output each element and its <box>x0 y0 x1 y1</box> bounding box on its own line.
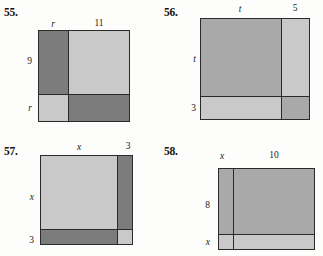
problem-58-region-top-left <box>219 169 233 234</box>
problem-57-region-top-right <box>117 156 132 229</box>
problem-number-55: 55. <box>4 6 18 18</box>
problem-57-left-label-1: 3 <box>14 236 34 246</box>
problem-56-region-bottom-right <box>281 96 309 119</box>
problem-58-left-label-0: 8 <box>190 201 210 211</box>
problem-55-top-label-0: r <box>38 20 68 30</box>
problem-56-divider-vertical <box>281 19 282 119</box>
problem-56-region-bottom-left <box>201 96 281 119</box>
problem-57-figure <box>40 155 133 245</box>
problem-55-divider-horizontal <box>39 94 129 95</box>
problem-56: 56. t 5 t 3 <box>162 0 323 128</box>
problem-57-top-label-0: x <box>40 143 118 153</box>
problem-57-region-bottom-left <box>41 229 117 244</box>
problem-55-region-bottom-right <box>68 94 129 121</box>
problem-58-region-bottom-right <box>233 234 314 249</box>
problem-57-top-label-1: 3 <box>118 142 138 152</box>
problem-number-57: 57. <box>4 145 18 157</box>
problem-56-left-label-0: t <box>176 55 196 65</box>
problem-56-figure <box>200 18 310 120</box>
problem-55-region-top-left <box>39 31 68 94</box>
problem-56-left-label-1: 3 <box>176 104 196 114</box>
problem-57-region-top-left <box>41 156 117 229</box>
worksheet-page: 55. r 11 9 r 56. t 5 t 3 <box>0 0 323 256</box>
problem-58-figure <box>218 168 315 250</box>
problem-56-top-label-1: 5 <box>280 4 310 14</box>
problem-57-divider-vertical <box>117 156 118 244</box>
problem-58-divider-horizontal <box>219 234 314 235</box>
problem-56-divider-horizontal <box>201 96 309 97</box>
problem-56-region-top-right <box>281 19 309 96</box>
problem-58-left-label-1: x <box>190 238 210 248</box>
problem-number-56: 56. <box>164 6 178 18</box>
problem-58: 58. x 10 8 x <box>162 128 323 256</box>
problem-56-top-label-0: t <box>200 5 280 15</box>
problem-55-region-top-right <box>68 31 129 94</box>
problem-55-region-bottom-left <box>39 94 68 121</box>
problem-55-top-label-1: 11 <box>68 19 130 29</box>
problem-56-region-top-left <box>201 19 281 96</box>
problem-57: 57. x 3 x 3 <box>0 128 162 256</box>
problem-55-left-label-0: 9 <box>12 57 32 67</box>
problem-57-left-label-0: x <box>14 193 34 203</box>
problem-55-left-label-1: r <box>12 104 32 114</box>
problem-55-figure <box>38 30 130 122</box>
problem-number-58: 58. <box>164 145 178 157</box>
problem-58-region-top-right <box>233 169 314 234</box>
problem-55: 55. r 11 9 r <box>0 0 162 128</box>
problem-58-region-bottom-left <box>219 234 233 249</box>
problem-58-top-label-0: x <box>211 152 233 162</box>
problem-57-region-bottom-right <box>117 229 132 244</box>
problem-58-divider-vertical <box>233 169 234 249</box>
problem-58-top-label-1: 10 <box>233 151 315 161</box>
problem-55-divider-vertical <box>68 31 69 121</box>
problem-57-divider-horizontal <box>41 229 132 230</box>
